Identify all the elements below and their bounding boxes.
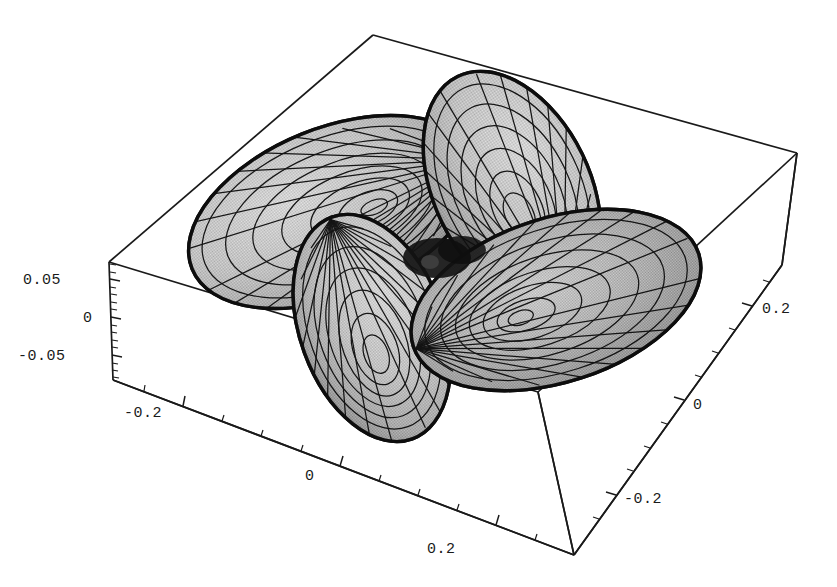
plot-canvas: 0.05 0 -0.05 -0.2 0 0.2 xyxy=(0,0,837,587)
y-axis-tick-label-bottom: -0.2 xyxy=(624,491,662,508)
surface-plot-figure: 0.05 0 -0.05 -0.2 0 0.2 xyxy=(0,0,837,587)
z-axis-tick-label-top: 0.05 xyxy=(23,272,61,289)
x-axis-tick-label-mid: 0 xyxy=(305,468,315,485)
z-axis-tick-label-bottom: -0.05 xyxy=(18,348,66,365)
y-axis-tick-label-top: 0.2 xyxy=(762,301,791,318)
z-axis-tick-label-mid: 0 xyxy=(83,310,93,327)
y-axis-tick-label-mid: 0 xyxy=(693,397,703,414)
x-axis-tick-label-right: 0.2 xyxy=(427,541,456,558)
x-axis-tick-label-left: -0.2 xyxy=(124,405,162,422)
